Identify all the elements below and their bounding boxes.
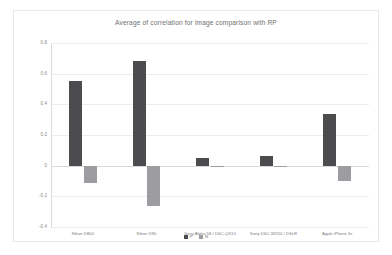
y-axis-tick-label: 0 xyxy=(44,163,47,168)
legend-swatch-icon xyxy=(184,235,188,239)
bar[interactable] xyxy=(323,114,336,166)
bar[interactable] xyxy=(196,158,209,166)
y-axis-tick-label: 0.8 xyxy=(41,41,47,46)
y-axis-tick-label: 0.4 xyxy=(41,102,47,107)
bar[interactable] xyxy=(84,166,97,183)
bar-group xyxy=(51,43,115,227)
bar-group xyxy=(305,43,369,227)
y-axis-tick-label: 0.2 xyxy=(41,133,47,138)
bar[interactable] xyxy=(274,166,287,167)
bar[interactable] xyxy=(211,166,224,167)
legend-swatch-icon xyxy=(199,235,203,239)
legend-item[interactable]: N xyxy=(199,235,208,239)
gridline xyxy=(51,227,369,228)
bar-group xyxy=(178,43,242,227)
bar-group xyxy=(242,43,306,227)
chart-title: Average of correlation for image compari… xyxy=(14,19,378,26)
bar[interactable] xyxy=(338,166,351,181)
y-axis-tick-label: -0.4 xyxy=(39,225,47,230)
plot-area: 0.80.60.40.20-0.2-0.4 Nikon D800Nikon D9… xyxy=(51,43,369,227)
legend-label: N xyxy=(205,235,208,239)
chart-container: Average of correlation for image compari… xyxy=(13,10,379,242)
bar-group xyxy=(115,43,179,227)
bar[interactable] xyxy=(133,61,146,165)
legend-item[interactable]: P xyxy=(184,235,192,239)
legend-label: P xyxy=(190,235,193,239)
y-axis-tick-label: 0.6 xyxy=(41,71,47,76)
chart-legend: PN xyxy=(14,235,378,239)
y-axis-tick-label: -0.2 xyxy=(39,194,47,199)
bar[interactable] xyxy=(69,81,82,165)
bar[interactable] xyxy=(147,166,160,206)
bar[interactable] xyxy=(260,156,273,165)
